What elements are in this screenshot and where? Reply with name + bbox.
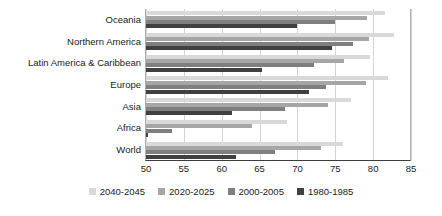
bar-2000-2005-africa (146, 129, 172, 133)
x-axis-tick-60: 60 (216, 163, 227, 174)
legend-swatch-icon (228, 188, 235, 195)
gridline (411, 9, 412, 160)
y-axis-category-labels: OceaniaNorthern AmericaLatin America & C… (0, 9, 141, 161)
bar-1980-1985-europe (146, 90, 309, 94)
y-axis-label-africa: Africa (117, 123, 141, 133)
bar-2040-2045-latin-america-caribbean (146, 55, 370, 59)
bar-2000-2005-world (146, 150, 275, 154)
bar-chart: OceaniaNorthern AmericaLatin America & C… (0, 0, 442, 216)
legend-item-2020-2025[interactable]: 2020-2025 (158, 186, 214, 197)
x-axis-tick-65: 65 (254, 163, 265, 174)
y-axis-label-latin-america-caribbean: Latin America & Caribbean (28, 58, 141, 68)
legend-label: 2040-2045 (100, 186, 145, 197)
chart-legend: 2040-20452020-20252000-20051980-1985 (0, 186, 442, 197)
bar-group (146, 11, 411, 28)
x-axis-tick-75: 75 (330, 163, 341, 174)
bar-2040-2045-world (146, 142, 343, 146)
bar-groups (146, 9, 411, 161)
bar-1980-1985-africa (146, 133, 148, 137)
x-axis-tick-70: 70 (292, 163, 303, 174)
legend-item-1980-1985[interactable]: 1980-1985 (297, 186, 353, 197)
legend-item-2040-2045[interactable]: 2040-2045 (89, 186, 145, 197)
legend-item-2000-2005[interactable]: 2000-2005 (228, 186, 284, 197)
x-axis-tick-80: 80 (368, 163, 379, 174)
x-axis-tick-85: 85 (406, 163, 417, 174)
bar-1980-1985-oceania (146, 24, 297, 28)
legend-label: 2020-2025 (169, 186, 214, 197)
bar-group (146, 142, 411, 159)
bar-group (146, 55, 411, 72)
x-axis-tick-55: 55 (179, 163, 190, 174)
y-axis-label-oceania: Oceania (106, 15, 141, 25)
bar-group (146, 33, 411, 50)
bar-2020-2025-europe (146, 81, 366, 85)
bar-2020-2025-world (146, 146, 321, 150)
bar-2000-2005-latin-america-caribbean (146, 63, 314, 67)
legend-swatch-icon (297, 188, 304, 195)
bar-group (146, 76, 411, 93)
legend-label: 1980-1985 (308, 186, 353, 197)
bar-group (146, 98, 411, 115)
bar-1980-1985-asia (146, 111, 232, 115)
bar-2020-2025-northern-america (146, 37, 369, 41)
bar-2040-2045-africa (146, 120, 287, 124)
bar-2020-2025-africa (146, 124, 252, 128)
y-axis-label-europe: Europe (110, 80, 141, 90)
bar-2040-2045-oceania (146, 11, 385, 15)
bar-group (146, 120, 411, 137)
bar-1980-1985-world (146, 155, 236, 159)
bar-2000-2005-northern-america (146, 42, 353, 46)
legend-swatch-icon (158, 188, 165, 195)
legend-label: 2000-2005 (239, 186, 284, 197)
legend-swatch-icon (89, 188, 96, 195)
bar-2000-2005-asia (146, 107, 285, 111)
x-axis-tick-labels: 5055606570758085 (0, 163, 442, 179)
y-axis-label-asia: Asia (123, 102, 141, 112)
bar-2040-2045-asia (146, 98, 351, 102)
bar-2000-2005-europe (146, 85, 326, 89)
x-axis-tick-50: 50 (141, 163, 152, 174)
bar-2020-2025-latin-america-caribbean (146, 59, 344, 63)
bar-2040-2045-northern-america (146, 33, 394, 37)
bar-2040-2045-europe (146, 76, 388, 80)
y-axis-label-northern-america: Northern America (67, 37, 141, 47)
bar-1980-1985-latin-america-caribbean (146, 68, 262, 72)
bar-2020-2025-asia (146, 103, 328, 107)
y-axis-label-world: World (116, 145, 141, 155)
bar-1980-1985-northern-america (146, 46, 332, 50)
bar-2000-2005-oceania (146, 20, 335, 24)
bar-2020-2025-oceania (146, 16, 367, 20)
